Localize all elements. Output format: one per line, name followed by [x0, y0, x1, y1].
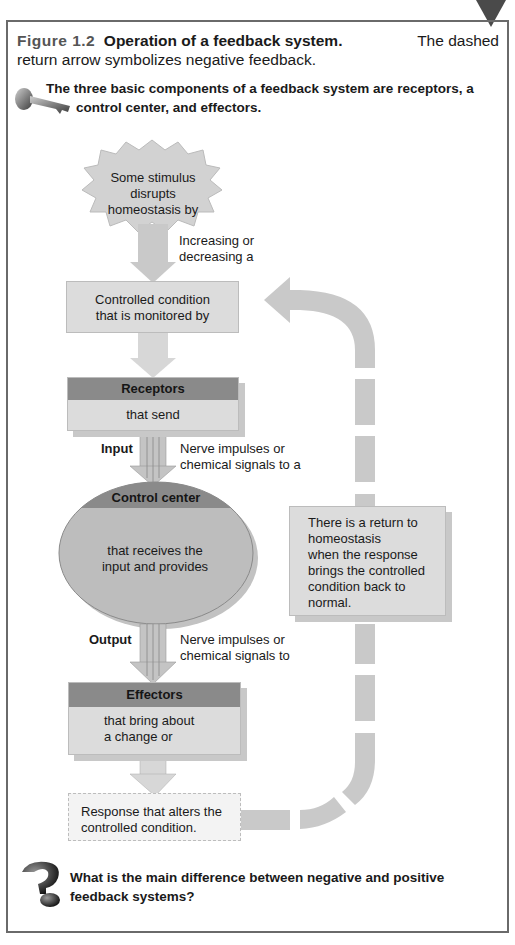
- effectors-line1: that bring about: [104, 713, 240, 729]
- stimulus-arrow-label: Increasing or decreasing a: [179, 233, 254, 265]
- question-text: What is the main difference between nega…: [70, 868, 444, 906]
- input-label: Input: [101, 441, 133, 457]
- controlled-condition-box: Controlled condition that is monitored b…: [66, 281, 239, 333]
- receptors-box: Receptors that send: [67, 377, 239, 431]
- effectors-header: Effectors: [69, 683, 240, 707]
- question-line2: feedback systems?: [70, 887, 444, 906]
- stimulus-arrow-label-line2: decreasing a: [179, 249, 254, 265]
- receptors-header: Receptors: [68, 378, 238, 400]
- return-note-line4: brings the controlled: [308, 563, 445, 579]
- output-description: Nerve impulses or chemical signals to: [180, 632, 290, 664]
- output-desc-line2: chemical signals to: [180, 648, 290, 664]
- controlled-condition-line2: that is monitored by: [67, 308, 238, 324]
- return-note-line2: homeostasis: [308, 531, 445, 547]
- receptors-body: that send: [68, 400, 238, 430]
- response-box: Response that alters the controlled cond…: [68, 793, 241, 841]
- control-center-line1: that receives the: [80, 543, 230, 559]
- control-center-line2: input and provides: [80, 559, 230, 575]
- return-to-homeostasis-note: There is a return to homeostasis when th…: [289, 506, 446, 616]
- input-desc-line2: chemical signals to a: [180, 457, 301, 473]
- return-note-line5: condition back to: [308, 579, 445, 595]
- control-center-body: that receives the input and provides: [80, 543, 230, 575]
- return-note-line3: when the response: [308, 547, 445, 563]
- control-center-header: Control center: [90, 490, 222, 505]
- effectors-box: Effectors that bring about a change or: [68, 682, 241, 755]
- response-line1: Response that alters the: [81, 804, 240, 820]
- input-desc-line1: Nerve impulses or: [180, 441, 301, 457]
- input-description: Nerve impulses or chemical signals to a: [180, 441, 301, 473]
- stimulus-line2: disrupts homeostasis by: [92, 186, 214, 218]
- response-line2: controlled condition.: [81, 820, 240, 836]
- question-mark-icon: [18, 858, 68, 908]
- output-desc-line1: Nerve impulses or: [180, 632, 290, 648]
- return-note-line6: normal.: [308, 595, 445, 611]
- controlled-condition-line1: Controlled condition: [67, 292, 238, 308]
- stimulus-arrow-label-line1: Increasing or: [179, 233, 254, 249]
- question-line1: What is the main difference between nega…: [70, 868, 444, 887]
- stimulus-line1: Some stimulus: [92, 170, 214, 186]
- effectors-body: that bring about a change or: [69, 707, 240, 745]
- effectors-line2: a change or: [104, 729, 240, 745]
- return-note-line1: There is a return to: [308, 515, 445, 531]
- output-label: Output: [89, 632, 132, 648]
- stimulus-text: Some stimulus disrupts homeostasis by: [92, 170, 214, 218]
